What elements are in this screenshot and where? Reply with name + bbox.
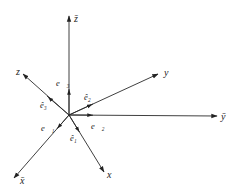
e3-hat-vector-arrow [47, 96, 69, 115]
e1-vector-arrow [57, 115, 69, 129]
e1-hat-vector-arrow [69, 115, 80, 132]
e2-hat-vector-arrow [69, 104, 93, 115]
e1-vector-label: e⃗₁ [41, 123, 54, 133]
e2-vector-label: e⃗₂ [91, 121, 104, 131]
coordinate-frame-diagram: z̄ ȳ x̄ x y z e⃗₃ e⃗₂ e⃗₁ ê₁ ê₂ ê₃ [0, 0, 236, 196]
z-label: z [15, 66, 20, 77]
x-bar-label: x̄ [19, 175, 25, 186]
e3-hat-vector-label: ê₃ [40, 100, 47, 110]
x-label: x [106, 169, 112, 180]
y-label: y [163, 67, 169, 78]
e2-hat-vector-label: ê₂ [84, 92, 91, 102]
y-bar-label: ȳ [220, 111, 226, 122]
e3-vector-label: e⃗₃ [56, 78, 69, 88]
e1-hat-vector-label: ê₁ [70, 133, 77, 143]
z-bar-label: z̄ [73, 13, 78, 24]
